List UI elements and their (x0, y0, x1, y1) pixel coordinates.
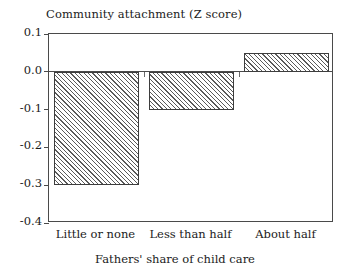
y-tick-mark-1 (44, 71, 49, 72)
plot-area (48, 33, 333, 222)
y-tick-mark-4 (44, 185, 49, 186)
bar-about-half (244, 53, 328, 72)
category-divider-tick-1 (239, 72, 240, 77)
category-divider-tick-0 (144, 72, 145, 77)
x-category-label-0: Little or none (48, 228, 143, 241)
x-category-label-1: Less than half (143, 228, 238, 241)
y-tick-label-0: 0.1 (2, 27, 42, 39)
y-tick-mark-3 (44, 147, 49, 148)
y-tick-label-2: -0.1 (2, 103, 42, 115)
bar-less-than-half (149, 72, 233, 110)
x-category-label-2: About half (238, 228, 333, 241)
y-tick-label-5: -0.4 (2, 216, 42, 228)
bar-little-or-none (54, 72, 138, 185)
y-tick-label-3: -0.2 (2, 140, 42, 152)
chart-figure: Community attachment (Z score) 0.1 0.0 -… (0, 0, 350, 272)
x-axis-title: Fathers' share of child care (0, 252, 350, 266)
y-tick-mark-0 (44, 34, 49, 35)
y-tick-label-1: 0.0 (2, 65, 42, 77)
y-tick-label-4: -0.3 (2, 178, 42, 190)
y-tick-mark-2 (44, 109, 49, 110)
chart-title: Community attachment (Z score) (46, 7, 242, 21)
y-tick-mark-5 (44, 223, 49, 224)
